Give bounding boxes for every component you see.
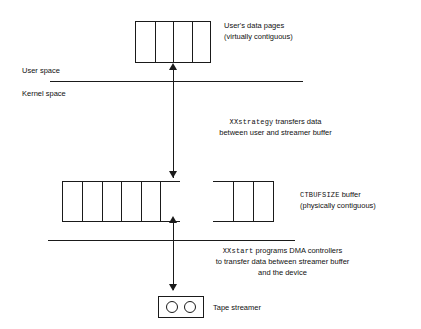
buffer-cell: [102, 182, 121, 221]
buffer-cell: [213, 182, 233, 221]
strategy-note-line1-rest: transfers data: [274, 117, 322, 126]
kernel-space-label: Kernel space: [22, 89, 66, 99]
strategy-arrow-head-up-icon: [169, 63, 177, 70]
start-arrow-shaft: [173, 222, 174, 290]
buffer-cell: [233, 182, 253, 221]
tape-reel-icon: [184, 301, 196, 313]
tape-streamer-device-box: [158, 296, 204, 318]
start-note-line3: and the device: [180, 268, 385, 278]
start-note-line1: XXstart programs DMA controllers: [180, 246, 385, 256]
ctbufsize-buffer-right-segment: [213, 181, 274, 222]
ctbufsize-buffer-left-segment: [62, 181, 180, 222]
strategy-arrow-shaft: [173, 70, 174, 178]
buffer-cell: [82, 182, 101, 221]
tape-streamer-dataflow-diagram: User's data pages (virtually contiguous)…: [0, 0, 421, 329]
start-note-line1-rest: programs DMA controllers: [254, 246, 343, 255]
strategy-code-token: XXstrategy: [230, 118, 274, 126]
strategy-note-line1: XXstrategy transfers data: [183, 117, 368, 127]
tape-streamer-label: Tape streamer: [213, 303, 261, 313]
user-data-pages-label-line2: (virtually contiguous): [224, 32, 293, 42]
ctbufsize-code-token: CTBUFSIZE: [300, 191, 340, 199]
user-space-label: User space: [22, 66, 60, 76]
user-page-cell: [173, 22, 192, 62]
start-note-line2: to transfer data between streamer buffer: [180, 257, 385, 267]
ctbufsize-label-line1-rest: buffer: [340, 190, 361, 199]
strategy-arrow-head-down-icon: [169, 171, 177, 178]
start-arrow-head-down-icon: [169, 284, 177, 291]
buffer-cell: [253, 182, 273, 221]
kernel-device-divider-line: [48, 240, 295, 241]
user-data-pages-box: [135, 21, 211, 63]
user-page-cell: [155, 22, 174, 62]
user-data-pages-label-line1: User's data pages: [224, 21, 284, 31]
user-kernel-divider-line: [50, 81, 303, 82]
start-code-token: XXstart: [223, 247, 254, 255]
user-page-cell: [136, 22, 155, 62]
buffer-cell: [141, 182, 160, 221]
ctbufsize-label-line1: CTBUFSIZE buffer: [300, 190, 361, 200]
tape-reel-icon: [166, 301, 178, 313]
ctbufsize-label-line2: (physically contiguous): [300, 201, 376, 211]
start-arrow-head-up-icon: [169, 216, 177, 223]
user-page-cell: [192, 22, 211, 62]
buffer-cell: [63, 182, 82, 221]
buffer-cell: [121, 182, 140, 221]
strategy-note-line2: between user and streamer buffer: [183, 128, 368, 138]
